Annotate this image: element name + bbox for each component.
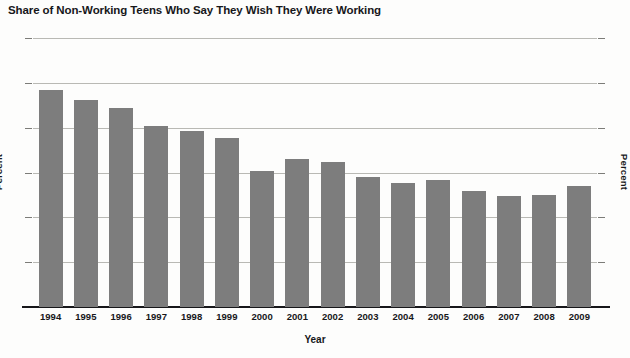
- bar-slot: 2008: [527, 38, 562, 307]
- x-axis-title: Year: [0, 334, 630, 345]
- x-axis-tick-label-1999: 1999: [216, 311, 237, 322]
- bar-slot: 1997: [139, 38, 174, 307]
- x-axis-tick-label-1998: 1998: [181, 311, 202, 322]
- x-axis-tick-label-2003: 2003: [357, 311, 378, 322]
- bar: [567, 186, 591, 307]
- x-axis-tick-label-2007: 2007: [498, 311, 519, 322]
- bar: [285, 159, 309, 307]
- bar: [144, 126, 168, 307]
- y-axis-tick-mark: [598, 38, 605, 39]
- bar: [250, 171, 274, 307]
- bar-slot: 2009: [562, 38, 597, 307]
- bar-slot: 2005: [421, 38, 456, 307]
- bar-slot: 2004: [386, 38, 421, 307]
- bar: [356, 177, 380, 307]
- y-axis-tick-mark: [598, 262, 605, 263]
- bar: [74, 100, 98, 307]
- x-axis-tick-label-2008: 2008: [534, 311, 555, 322]
- y-axis-tick-mark: [598, 128, 605, 129]
- y-axis-tick-mark: [25, 128, 32, 129]
- chart-page: Share of Non-Working Teens Who Say They …: [0, 0, 630, 358]
- bar: [532, 195, 556, 307]
- y-axis-tick-mark: [598, 83, 605, 84]
- bar-slot: 2002: [315, 38, 350, 307]
- x-axis-tick-label-2004: 2004: [393, 311, 414, 322]
- bar-slot: 2007: [491, 38, 526, 307]
- bar-slot: 1998: [174, 38, 209, 307]
- x-axis-tick-label-2000: 2000: [252, 311, 273, 322]
- y-axis-title-right: Percent: [619, 154, 630, 190]
- bar-slot: 1999: [209, 38, 244, 307]
- x-axis-tick-label-1996: 1996: [111, 311, 132, 322]
- y-axis-tick-mark: [25, 262, 32, 263]
- x-axis-tick-label-2009: 2009: [569, 311, 590, 322]
- plot-area: 005510101515202025253030 199419951996199…: [33, 38, 597, 307]
- bar-slot: 1994: [33, 38, 68, 307]
- bar-slot: 2000: [245, 38, 280, 307]
- y-axis-tick-mark: [25, 217, 32, 218]
- y-axis-tick-mark: [25, 38, 32, 39]
- y-axis-tick-mark: [598, 217, 605, 218]
- bar: [497, 196, 521, 307]
- bar: [391, 183, 415, 307]
- bars-group: 1994199519961997199819992000200120022003…: [33, 38, 597, 307]
- bar: [180, 131, 204, 307]
- x-axis-tick-label-1995: 1995: [75, 311, 96, 322]
- x-axis-tick-label-1997: 1997: [146, 311, 167, 322]
- bar: [321, 162, 345, 307]
- bar-slot: 2006: [456, 38, 491, 307]
- x-axis-tick-label-2001: 2001: [287, 311, 308, 322]
- x-axis-tick-label-2005: 2005: [428, 311, 449, 322]
- bar-slot: 1995: [68, 38, 103, 307]
- bar-slot: 2003: [350, 38, 385, 307]
- bar-slot: 2001: [280, 38, 315, 307]
- bar: [109, 108, 133, 307]
- x-axis-tick-label-1994: 1994: [40, 311, 61, 322]
- y-axis-title-left: Percent: [0, 154, 4, 190]
- bar: [426, 180, 450, 307]
- y-axis-tick-mark: [598, 173, 605, 174]
- bar: [215, 138, 239, 307]
- chart-title: Share of Non-Working Teens Who Say They …: [8, 4, 381, 16]
- bar-slot: 1996: [104, 38, 139, 307]
- y-axis-tick-mark: [25, 173, 32, 174]
- y-axis-tick-mark: [25, 83, 32, 84]
- x-axis-tick-label-2006: 2006: [463, 311, 484, 322]
- x-axis-tick-label-2002: 2002: [322, 311, 343, 322]
- bar: [39, 90, 63, 307]
- bar: [462, 191, 486, 307]
